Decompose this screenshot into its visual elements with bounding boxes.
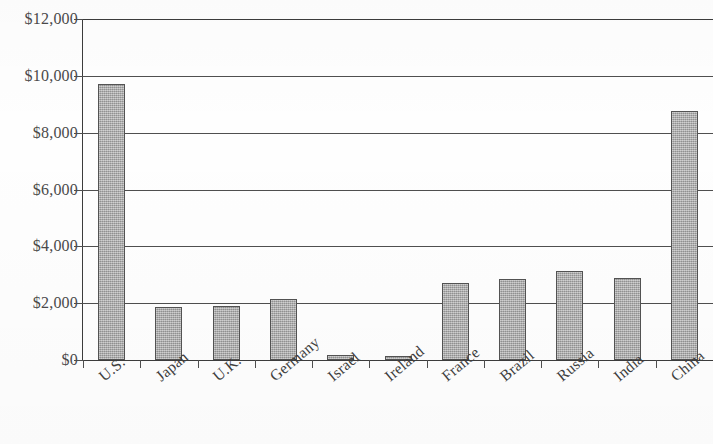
y-axis-tick-label: $10,000 — [0, 68, 78, 84]
gridline — [83, 76, 713, 77]
x-axis-tick — [656, 360, 657, 368]
x-axis-tick — [427, 360, 428, 368]
y-axis-tick-label: $4,000 — [0, 238, 78, 254]
x-axis-tick — [369, 360, 370, 368]
gridline — [83, 19, 713, 20]
y-axis-tick — [74, 360, 83, 361]
bar-chart: $12,000$10,000$8,000$6,000$4,000$2,000$0… — [0, 0, 713, 444]
bar-u-s — [98, 84, 125, 360]
plot-area — [83, 19, 713, 360]
x-axis-tick — [541, 360, 542, 368]
gridline — [83, 133, 713, 134]
x-axis-tick — [255, 360, 256, 368]
gridline — [83, 246, 713, 247]
x-axis-tick — [198, 360, 199, 368]
y-axis-tick — [74, 19, 83, 20]
y-axis-tick — [74, 246, 83, 247]
y-axis-tick-label: $12,000 — [0, 11, 78, 27]
y-axis-tick-label: $6,000 — [0, 182, 78, 198]
bar-china — [671, 111, 698, 360]
y-axis-tick-label: $8,000 — [0, 125, 78, 141]
bar-russia — [556, 271, 583, 361]
gridline — [83, 190, 713, 191]
y-axis-tick-label: $0 — [0, 352, 78, 368]
x-axis-tick — [83, 360, 84, 368]
x-axis-tick — [312, 360, 313, 368]
y-axis-tick — [74, 133, 83, 134]
y-axis-labels: $12,000$10,000$8,000$6,000$4,000$2,000$0 — [0, 0, 78, 444]
x-axis-tick — [598, 360, 599, 368]
y-axis-tick — [74, 76, 83, 77]
y-axis-tick — [74, 190, 83, 191]
y-axis-tick-label: $2,000 — [0, 295, 78, 311]
bar-u-k — [213, 306, 240, 360]
x-axis-tick — [140, 360, 141, 368]
x-axis-tick — [484, 360, 485, 368]
y-axis-tick — [74, 303, 83, 304]
bar-brazil — [499, 279, 526, 360]
bar-india — [614, 278, 641, 360]
